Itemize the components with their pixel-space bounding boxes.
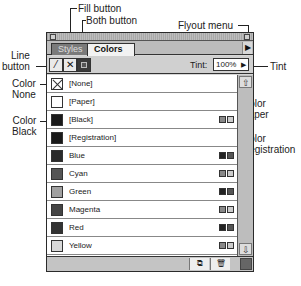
process-color-icon [219,116,226,123]
tint-value: 100% [216,60,236,69]
color-row-cyan[interactable]: Cyan [47,165,237,183]
trash-icon: 🗑 [216,259,226,268]
spot-color-icon [219,188,226,195]
pencil-icon: ⁄ [55,59,57,70]
spot-color-icon [219,152,226,159]
color-row-green[interactable]: Green [47,183,237,201]
callout-fill-button: Fill button [78,3,121,14]
swatch-blue [51,150,63,162]
swatch-none-icon [51,78,63,90]
swatch-black [51,114,63,126]
toolbar: ⁄ ✕ Tint: 100% ▶ [47,56,253,74]
cmyk-model-icon [227,170,234,177]
cmyk-model-icon [227,116,234,123]
bottom-bar: ⧉ 🗑 [47,256,253,271]
resize-handle-icon[interactable] [240,258,252,270]
vertical-scrollbar[interactable]: ⇧ ⇩ [237,75,253,256]
swatch-registration [51,132,63,144]
callout-line-button: Line button [2,50,30,72]
close-box[interactable] [50,34,56,40]
colors-palette: Styles Colors ▶ ⁄ ✕ Tint: 100% ▶ [None] … [46,32,254,272]
line-button[interactable]: ⁄ [49,58,63,72]
color-row-red[interactable]: Red [47,219,237,237]
process-color-icon [219,242,226,249]
zoom-box[interactable] [244,34,250,40]
square-icon [81,62,87,68]
swatch-paper [51,96,63,108]
color-row-magenta[interactable]: Magenta [47,201,237,219]
color-row-yellow[interactable]: Yellow [47,237,237,255]
rgb-model-icon [227,224,234,231]
delete-color-button[interactable]: 🗑 [210,258,230,270]
callout-color-black: Color Black [12,115,36,137]
both-button[interactable] [77,58,91,72]
tab-styles[interactable]: Styles [51,43,89,55]
flyout-menu-button[interactable]: ▶ [242,42,252,54]
callout-both-button: Both button [86,15,137,26]
process-color-icon [219,170,226,177]
callout-color-none: Color None [12,78,36,100]
callout-tint: Tint [270,61,286,72]
color-row-paper[interactable]: [Paper] [47,93,237,111]
swatch-red [51,222,63,234]
rgb-model-icon [227,152,234,159]
new-color-button[interactable]: ⧉ [189,258,209,270]
leader-flyout [238,25,248,26]
callout-flyout-menu: Flyout menu [178,20,233,31]
color-row-blue[interactable]: Blue [47,147,237,165]
new-page-icon: ⧉ [197,259,203,268]
color-row-none[interactable]: [None] [47,75,237,93]
x-icon: ✕ [66,59,74,70]
tint-field[interactable]: 100% ▶ [213,58,249,71]
color-list: [None] [Paper] [Black] [Registration] Bl… [47,75,237,256]
leader-fill [70,8,77,9]
palette-titlebar[interactable] [47,33,253,41]
swatch-cyan [51,168,63,180]
fill-button[interactable]: ✕ [63,58,77,72]
rgb-model-icon [227,188,234,195]
cmyk-model-icon [227,206,234,213]
cmyk-model-icon [227,242,234,249]
color-row-black[interactable]: [Black] [47,111,237,129]
tab-colors[interactable]: Colors [87,43,135,56]
scroll-down-arrow-icon[interactable]: ⇩ [239,243,252,255]
swatch-magenta [51,204,63,216]
color-row-registration[interactable]: [Registration] [47,129,237,147]
tab-bar: Styles Colors ▶ [47,41,253,55]
spot-color-icon [219,224,226,231]
tint-label: Tint: [190,60,207,70]
swatch-yellow [51,240,63,252]
tint-dropdown-arrow-icon[interactable]: ▶ [241,59,246,70]
swatch-green [51,186,63,198]
scroll-up-arrow-icon[interactable]: ⇧ [239,76,252,88]
process-color-icon [219,206,226,213]
